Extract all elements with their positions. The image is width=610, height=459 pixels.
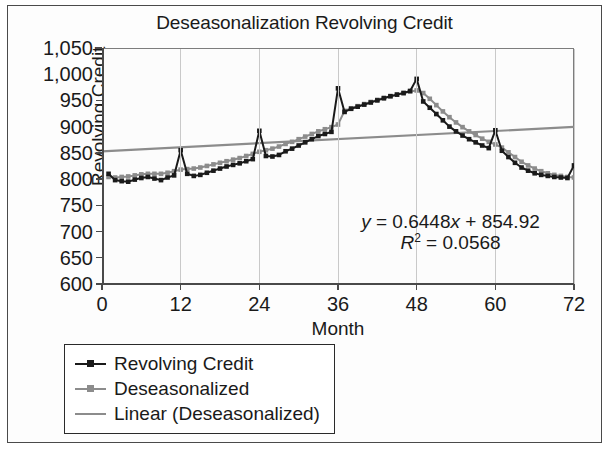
y-tick-850 bbox=[96, 152, 102, 153]
legend-marker bbox=[87, 360, 94, 367]
data-point bbox=[368, 100, 373, 105]
data-point bbox=[447, 124, 452, 129]
data-point bbox=[309, 132, 314, 137]
data-point bbox=[283, 149, 288, 154]
data-point bbox=[106, 172, 111, 177]
y-tick-950 bbox=[96, 100, 102, 101]
data-point bbox=[473, 133, 478, 138]
data-point bbox=[401, 91, 406, 96]
data-point bbox=[323, 127, 328, 132]
data-point bbox=[375, 98, 380, 103]
data-point bbox=[126, 174, 131, 179]
y-tick-label-650: 650 bbox=[60, 246, 93, 269]
data-point bbox=[349, 106, 354, 111]
legend-swatch-icon bbox=[75, 382, 106, 396]
data-point bbox=[296, 137, 301, 142]
x-tick-label-0: 0 bbox=[96, 293, 107, 316]
data-point bbox=[460, 133, 465, 138]
legend-item-0[interactable]: Revolving Credit bbox=[75, 351, 320, 376]
data-point bbox=[421, 99, 426, 104]
gridline-x-12 bbox=[180, 49, 181, 285]
data-point bbox=[132, 173, 137, 178]
data-point bbox=[244, 159, 249, 164]
data-point bbox=[545, 174, 550, 179]
x-tick-72 bbox=[573, 284, 574, 290]
data-point bbox=[119, 179, 124, 184]
y-tick-1000 bbox=[96, 74, 102, 75]
y-tick-1050 bbox=[96, 47, 102, 48]
data-point bbox=[565, 176, 570, 181]
x-tick-label-48: 48 bbox=[406, 293, 428, 316]
legend-item-2[interactable]: Linear (Deseasonalized) bbox=[75, 401, 320, 426]
data-point bbox=[559, 175, 564, 180]
legend-line bbox=[75, 413, 106, 415]
gridline-x-72 bbox=[574, 49, 575, 285]
data-point bbox=[270, 146, 275, 151]
data-point bbox=[296, 143, 301, 148]
trendline-equation: y = 0.6448x + 854.92 bbox=[338, 211, 563, 232]
data-point bbox=[152, 172, 157, 177]
gridline-x-24 bbox=[259, 49, 260, 285]
data-point bbox=[513, 161, 518, 166]
data-point bbox=[434, 112, 439, 117]
x-tick-label-24: 24 bbox=[248, 293, 270, 316]
x-tick-label-60: 60 bbox=[484, 293, 506, 316]
chart-figure: Deseasonalization Revolving Credit Revol… bbox=[7, 5, 602, 443]
data-point bbox=[362, 102, 367, 107]
data-point bbox=[211, 162, 216, 167]
data-point bbox=[277, 153, 282, 158]
data-point bbox=[159, 172, 164, 177]
data-point bbox=[185, 172, 190, 177]
y-tick-label-750: 750 bbox=[60, 194, 93, 217]
legend-label: Linear (Deseasonalized) bbox=[114, 403, 320, 425]
data-point bbox=[532, 171, 537, 176]
data-point bbox=[355, 104, 360, 109]
data-point bbox=[519, 159, 524, 164]
data-point bbox=[467, 129, 472, 134]
data-point bbox=[519, 165, 524, 170]
data-point bbox=[211, 168, 216, 173]
x-tick-48 bbox=[416, 284, 417, 290]
legend-label: Revolving Credit bbox=[114, 353, 253, 375]
legend-item-1[interactable]: Deseasonalized bbox=[75, 376, 320, 401]
data-point bbox=[277, 144, 282, 149]
x-tick-label-72: 72 bbox=[563, 293, 585, 316]
data-point bbox=[146, 175, 151, 180]
data-point bbox=[290, 140, 295, 145]
data-point bbox=[264, 154, 269, 159]
data-point bbox=[460, 125, 465, 130]
data-point bbox=[342, 110, 347, 115]
legend-swatch-icon bbox=[75, 407, 106, 421]
y-tick-label-600: 600 bbox=[60, 273, 93, 296]
data-point bbox=[454, 120, 459, 125]
data-point bbox=[526, 163, 531, 168]
data-point bbox=[119, 175, 124, 180]
data-point bbox=[270, 154, 275, 159]
data-point bbox=[198, 173, 203, 178]
data-point bbox=[303, 140, 308, 145]
chart-legend: Revolving CreditDeseasonalizedLinear (De… bbox=[64, 344, 335, 434]
data-point bbox=[139, 176, 144, 181]
data-point bbox=[205, 164, 210, 169]
data-point bbox=[467, 137, 472, 142]
data-point bbox=[316, 129, 321, 134]
data-point bbox=[382, 96, 387, 101]
y-tick-650 bbox=[96, 257, 102, 258]
y-axis-line bbox=[102, 48, 104, 284]
y-tick-label-900: 900 bbox=[60, 115, 93, 138]
chart-title: Deseasonalization Revolving Credit bbox=[8, 12, 601, 34]
data-point bbox=[159, 178, 164, 183]
y-tick-label-850: 850 bbox=[60, 141, 93, 164]
data-point bbox=[231, 163, 236, 168]
x-tick-label-12: 12 bbox=[170, 293, 192, 316]
x-axis-title: Month bbox=[102, 318, 574, 340]
data-point bbox=[126, 179, 131, 184]
data-point bbox=[454, 129, 459, 134]
data-point bbox=[198, 165, 203, 170]
data-point bbox=[172, 173, 177, 178]
data-point bbox=[480, 136, 485, 141]
data-point bbox=[205, 170, 210, 175]
data-point bbox=[231, 157, 236, 162]
data-point bbox=[447, 115, 452, 120]
data-point bbox=[513, 155, 518, 160]
